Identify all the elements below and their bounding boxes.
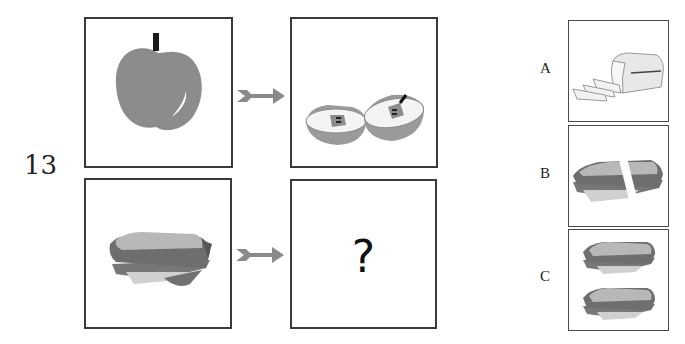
apple-halves-icon — [292, 19, 436, 166]
cut-sandwich-icon — [569, 126, 667, 225]
question-mark: ? — [292, 231, 435, 282]
sandwich-icon — [86, 180, 230, 327]
option-b-label: B — [540, 165, 550, 182]
question-number: 13 — [24, 150, 57, 180]
sliced-bread-loaf-icon — [569, 21, 667, 120]
option-a-label: A — [540, 60, 551, 77]
sandwich-panel — [84, 178, 232, 329]
arrow-icon-row2 — [236, 247, 286, 263]
option-b[interactable] — [568, 125, 669, 227]
unknown-answer-panel: ? — [290, 179, 437, 329]
apple-halves-panel — [290, 17, 438, 168]
two-sandwiches-icon — [569, 230, 667, 329]
option-c-label: C — [540, 268, 550, 285]
option-c[interactable] — [568, 229, 669, 331]
option-a[interactable] — [568, 20, 669, 122]
apple-icon — [86, 19, 231, 166]
apple-panel — [84, 17, 233, 168]
arrow-icon-row1 — [237, 88, 287, 104]
